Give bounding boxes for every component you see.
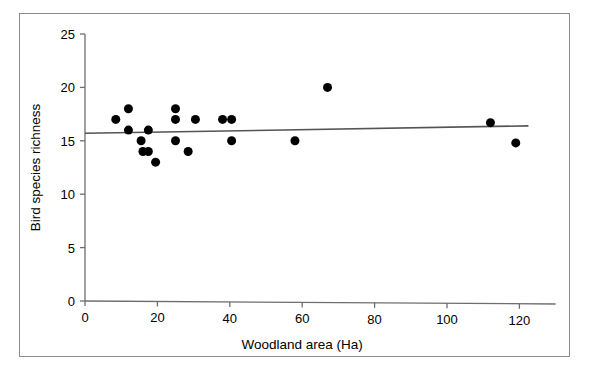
y-axis-tick-label: 25 [61,27,75,42]
y-axis-tick-label: 5 [68,241,75,256]
x-axis-tick-label: 80 [367,312,381,327]
data-point [111,115,120,124]
data-point [171,115,180,124]
data-point [290,136,299,145]
data-point [144,147,153,156]
x-axis-tick-label: 120 [509,313,531,328]
data-point [486,118,495,127]
data-point [171,104,180,113]
page-top-cutoff-text [0,0,591,9]
data-point [171,136,180,145]
x-axis-line [85,301,556,304]
data-point [124,104,133,113]
data-point [144,126,153,135]
figure-container: 0510152025020406080100120Woodland area (… [19,13,570,357]
data-point [227,115,236,124]
data-point [191,115,200,124]
x-axis-tick-label: 40 [223,311,237,326]
data-point [323,83,332,92]
scatter-plot: 0510152025020406080100120Woodland area (… [20,14,569,356]
data-point [218,115,227,124]
data-point [124,126,133,135]
data-point [511,138,520,147]
y-axis-tick-label: 10 [61,187,75,202]
x-axis-tick-label: 100 [436,312,458,327]
x-axis-tick-label: 0 [81,310,88,325]
data-point [151,158,160,167]
data-point [184,147,193,156]
y-axis-title: Bird species richness [28,103,43,231]
y-axis-tick-label: 20 [61,80,75,95]
x-axis-tick-label: 20 [150,310,164,325]
y-axis-tick-label: 15 [61,134,75,149]
x-axis-tick-label: 60 [295,311,309,326]
figure-caption [20,371,560,383]
data-point [137,136,146,145]
x-axis-title: Woodland area (Ha) [242,337,363,352]
y-axis-tick-label: 0 [68,294,75,309]
data-point [227,136,236,145]
